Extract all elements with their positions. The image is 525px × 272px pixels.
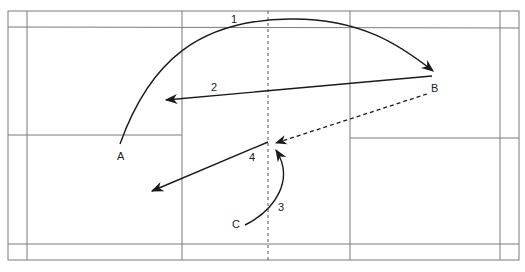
dashed-movement-line bbox=[276, 94, 427, 143]
shot-3-label: 3 bbox=[278, 201, 284, 213]
shot-paths bbox=[120, 19, 433, 225]
shot-2-line bbox=[166, 76, 432, 100]
labels: 1 2 3 4 A B C bbox=[117, 13, 438, 230]
top-long-service-line bbox=[8, 27, 519, 28]
shot-4-line bbox=[152, 142, 268, 191]
position-a-label: A bbox=[117, 150, 125, 162]
shot-1-label: 1 bbox=[231, 13, 237, 25]
court-lines bbox=[8, 11, 519, 260]
shot-1-arc bbox=[120, 19, 433, 144]
court-diagram: 1 2 3 4 A B C bbox=[0, 0, 525, 272]
shot-2-label: 2 bbox=[211, 81, 217, 93]
position-b-label: B bbox=[431, 82, 438, 94]
shot-4-label: 4 bbox=[249, 151, 255, 163]
position-c-label: C bbox=[232, 218, 240, 230]
